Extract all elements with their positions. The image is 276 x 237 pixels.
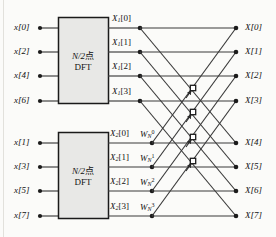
x1-idx-1: [1] — [121, 37, 132, 47]
output-label-4: X[4] — [245, 138, 262, 147]
output-label-3: X[3] — [245, 96, 262, 105]
twiddle-base-1: W — [140, 153, 148, 163]
twiddle-base-2: W — [140, 177, 148, 187]
x1-idx-3: [3] — [121, 86, 132, 96]
dft-bottom-n: N/2 — [72, 166, 85, 176]
input-lines — [41, 28, 58, 216]
dft-bottom-dft: DFT — [74, 177, 91, 187]
output-label-5: X[5] — [245, 162, 262, 171]
stage-node-dots — [138, 26, 155, 219]
merge-node-3 — [190, 158, 195, 163]
twiddle-base-3: W — [140, 202, 148, 212]
intermediate-top-label-0: X1[0] — [112, 14, 131, 23]
dft-box-bottom-label: N/2点 DFT — [58, 166, 108, 187]
merge-node-1 — [190, 109, 195, 114]
intermediate-bottom-label-1: X2[1] — [110, 153, 129, 162]
output-label-7: X[7] — [245, 211, 262, 220]
twiddle-sup-0: 0 — [152, 129, 155, 135]
twiddle-label-2: WN2 — [140, 177, 155, 187]
dft-top-dft: DFT — [74, 62, 91, 72]
twiddle-sup-3: 3 — [152, 202, 155, 208]
output-label-1: X[1] — [245, 47, 262, 56]
intermediate-bottom-label-2: X2[2] — [110, 177, 129, 186]
input-label-2: x[4] — [14, 71, 30, 80]
merge-nodes — [190, 85, 195, 163]
input-label-6: x[5] — [14, 186, 30, 195]
dft-bottom-unit: 点 — [85, 166, 94, 176]
twiddle-label-3: WN3 — [140, 202, 155, 212]
x2-idx-2: [2] — [119, 176, 130, 186]
input-label-0: x[0] — [14, 23, 30, 32]
x2-idx-0: [0] — [119, 128, 130, 138]
input-label-1: x[2] — [14, 47, 30, 56]
dft-box-top-label: N/2点 DFT — [58, 51, 108, 72]
output-label-2: X[2] — [245, 71, 262, 80]
x2-idx-3: [3] — [119, 201, 130, 211]
twiddle-sup-2: 2 — [152, 177, 155, 183]
input-dots — [38, 26, 42, 218]
intermediate-top-label-1: X1[1] — [112, 38, 131, 47]
merge-node-2 — [190, 134, 195, 139]
input-label-7: x[7] — [14, 211, 30, 220]
input-label-5: x[3] — [14, 162, 30, 171]
block-output-lines — [108, 28, 152, 216]
intermediate-top-label-3: X1[3] — [112, 87, 131, 96]
butterfly-crossing-lines — [140, 28, 236, 216]
x1-idx-2: [2] — [121, 61, 132, 71]
dft-top-n: N/2 — [72, 51, 85, 61]
twiddle-label-0: WN0 — [140, 129, 155, 139]
intermediate-top-label-2: X1[2] — [112, 62, 131, 71]
output-label-6: X[6] — [245, 186, 262, 195]
intermediate-bottom-label-0: X2[0] — [110, 129, 129, 138]
x1-idx-0: [0] — [121, 13, 132, 23]
fft-butterfly-diagram: x[0] x[2] x[4] x[6] x[1] x[3] x[5] x[7] … — [0, 0, 276, 237]
input-label-4: x[1] — [14, 138, 30, 147]
output-label-0: X[0] — [245, 23, 262, 32]
input-label-3: x[6] — [14, 96, 30, 105]
x2-idx-1: [1] — [119, 152, 130, 162]
twiddle-base-0: W — [140, 129, 148, 139]
intermediate-bottom-label-3: X2[3] — [110, 202, 129, 211]
merge-node-0 — [190, 85, 195, 90]
twiddle-sup-1: 1 — [152, 153, 155, 159]
twiddle-label-1: WN1 — [140, 153, 155, 163]
flow-graph-canvas — [0, 0, 276, 237]
dft-top-unit: 点 — [85, 51, 94, 61]
